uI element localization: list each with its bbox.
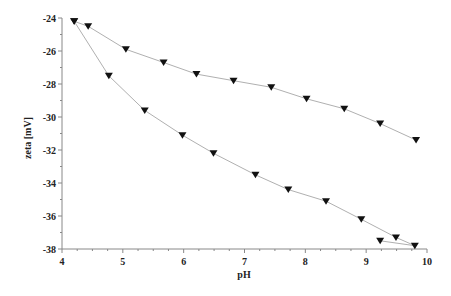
data-point-marker	[251, 172, 259, 179]
series-line	[74, 21, 415, 245]
data-point-marker	[141, 107, 149, 114]
x-tick-label: 7	[242, 256, 247, 267]
y-tick-label: -32	[43, 145, 56, 156]
data-point-marker	[209, 150, 217, 157]
data-point-marker	[392, 234, 400, 241]
data-point-marker	[160, 60, 168, 67]
series-line	[74, 21, 416, 140]
data-point-marker	[84, 23, 92, 30]
data-point-marker	[122, 46, 130, 53]
data-point-marker	[412, 137, 420, 144]
zeta-potential-chart: 45678910-24-26-28-30-32-34-36-38 pH zeta…	[0, 0, 451, 296]
data-point-marker	[411, 243, 419, 250]
y-axis-title: zeta [mV]	[22, 117, 33, 159]
data-point-marker	[357, 216, 365, 223]
x-tick-label: 9	[364, 256, 369, 267]
axes: 45678910-24-26-28-30-32-34-36-38	[43, 13, 432, 268]
data-point-marker	[178, 132, 186, 139]
series-upper	[70, 18, 420, 143]
y-tick-label: -34	[43, 178, 56, 189]
y-tick-label: -38	[43, 244, 56, 255]
data-point-marker	[340, 106, 348, 113]
data-point-marker	[322, 198, 330, 205]
x-axis-title: pH	[237, 269, 251, 280]
y-tick-label: -30	[43, 112, 56, 123]
y-tick-label: -24	[43, 13, 56, 24]
data-point-marker	[376, 121, 384, 128]
x-tick-label: 4	[60, 256, 65, 267]
data-point-marker	[70, 18, 78, 25]
y-tick-label: -28	[43, 79, 56, 90]
data-point-marker	[267, 84, 275, 91]
x-tick-label: 5	[120, 256, 125, 267]
x-tick-label: 10	[422, 256, 432, 267]
series-lower	[70, 18, 419, 249]
y-tick-label: -26	[43, 46, 56, 57]
y-tick-label: -36	[43, 211, 56, 222]
series-layer	[70, 18, 420, 249]
x-tick-label: 8	[303, 256, 308, 267]
data-point-marker	[284, 187, 292, 194]
x-tick-label: 6	[181, 256, 186, 267]
